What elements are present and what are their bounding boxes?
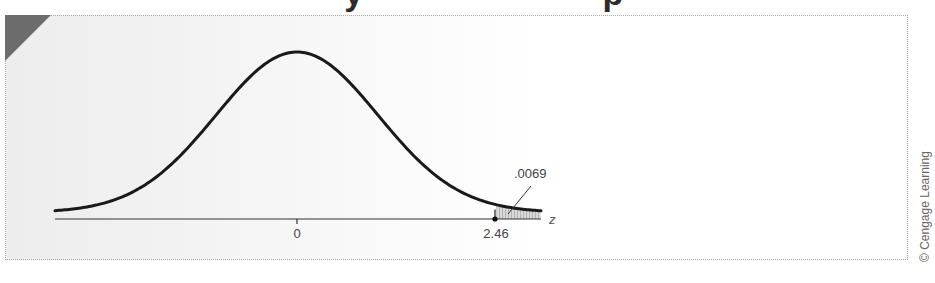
copyright-credit: © Cengage Learning (918, 151, 932, 262)
axis-variable-label: z (548, 212, 556, 227)
normal-curve (55, 52, 541, 211)
normal-curve-plot: 0 2.46 z .0069 (0, 0, 935, 283)
tick-label-cutoff: 2.46 (483, 226, 508, 241)
cutoff-point (492, 216, 497, 221)
tail-area-label: .0069 (514, 166, 547, 181)
tick-label-zero: 0 (293, 226, 300, 241)
